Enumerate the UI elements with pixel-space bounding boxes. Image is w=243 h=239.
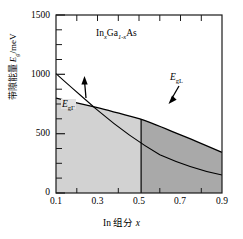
- x-axis-label-var: x: [136, 218, 140, 228]
- dark-shaded-region: [141, 119, 222, 193]
- formula-as: As: [126, 28, 137, 38]
- eg-l-subscript: gL: [176, 77, 183, 84]
- formula-in: In: [96, 28, 104, 38]
- y-axis-label-subscript: g: [13, 53, 20, 56]
- y-axis-label-symbol: E: [8, 57, 18, 63]
- y-axis-label-cn: 带隙能量: [8, 62, 18, 100]
- eg-gamma-subscript: gΓ: [68, 104, 75, 111]
- x-axis-label: In 组分 x: [0, 215, 243, 229]
- eg-gamma-label: EgΓ: [61, 99, 76, 111]
- top-axis-ticks: [77, 15, 202, 21]
- formula-annotation: InxGa1-xAs: [96, 28, 137, 40]
- chart-figure: InxGa1-xAs EgΓ EgL 1500 1000 500 0 0.1 0…: [0, 0, 243, 239]
- xtick-label-09: 0.9: [207, 196, 237, 206]
- y-axis-label: 带隙能量 Eg/meV: [6, 7, 20, 127]
- formula-ga: Ga: [107, 28, 118, 38]
- eg-gamma-arrow: [81, 76, 87, 98]
- x-axis-label-text: In 组分: [103, 218, 136, 228]
- formula-sub-1x: 1-x: [118, 33, 126, 40]
- eg-l-arrow: [169, 86, 180, 104]
- y-axis-label-unit: /meV: [8, 33, 18, 53]
- xtick-label-07: 0.7: [165, 196, 195, 206]
- ytick-label-1500: 1500: [16, 10, 50, 20]
- xtick-label-01: 0.1: [41, 196, 71, 206]
- ytick-label-1000: 1000: [16, 69, 50, 79]
- xtick-label-05: 0.5: [124, 196, 154, 206]
- eg-l-label: EgL: [170, 72, 183, 84]
- xtick-label-03: 0.3: [83, 196, 113, 206]
- ytick-label-500: 500: [16, 128, 50, 138]
- light-shaded-region: [56, 98, 141, 193]
